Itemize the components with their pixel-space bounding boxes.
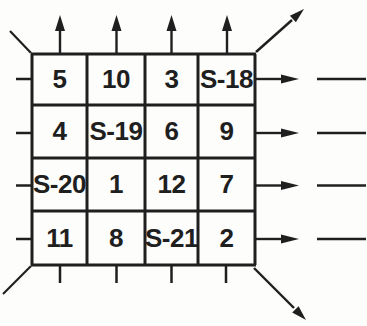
grid-cell-r3c4: 7 xyxy=(198,158,255,211)
grid-cell-r4c1: 11 xyxy=(32,211,87,265)
grid-cell-r1c4: S-18 xyxy=(198,54,255,105)
grid-cell-r3c3: 12 xyxy=(145,158,198,211)
up-arrow-col-3 xyxy=(167,15,177,53)
grid-cell-r4c3: S-21 xyxy=(145,211,198,265)
top-right-diagonal-arrow xyxy=(256,9,304,52)
bottom-tick-marks xyxy=(60,266,226,283)
bottom-right-diagonal-arrow xyxy=(254,268,306,320)
up-arrow-col-2 xyxy=(112,15,122,53)
grid-cell-r2c2: S-19 xyxy=(87,105,145,158)
right-rule-segments xyxy=(317,79,366,239)
grid-cell-r1c2: 10 xyxy=(87,54,145,105)
plot-grid: 5 10 3 S-18 4 S-19 6 9 S-20 1 12 7 11 8 … xyxy=(32,54,255,265)
grid-cell-r2c1: 4 xyxy=(32,105,87,158)
grid-cell-r3c1: S-20 xyxy=(32,158,87,211)
up-arrow-col-4 xyxy=(222,15,232,53)
right-arrow-row-2 xyxy=(256,129,299,138)
grid-cell-r3c2: 1 xyxy=(87,158,145,211)
right-arrow-row-3 xyxy=(256,181,299,190)
bottom-left-diagonal-line xyxy=(3,266,31,294)
left-tick-marks xyxy=(16,79,31,239)
grid-cell-r2c4: 9 xyxy=(198,105,255,158)
grid-cell-r4c2: 8 xyxy=(87,211,145,265)
right-arrow-row-4 xyxy=(256,235,299,244)
grid-cell-r1c3: 3 xyxy=(145,54,198,105)
grid-cell-r2c3: 6 xyxy=(145,105,198,158)
top-left-diagonal-line xyxy=(10,31,31,53)
grid-cell-r1c1: 5 xyxy=(32,54,87,105)
field-plot-diagram: 5 10 3 S-18 4 S-19 6 9 S-20 1 12 7 11 8 … xyxy=(0,0,367,326)
up-arrow-col-1 xyxy=(55,15,65,53)
right-arrow-row-1 xyxy=(256,75,299,84)
grid-cell-r4c4: 2 xyxy=(198,211,255,265)
